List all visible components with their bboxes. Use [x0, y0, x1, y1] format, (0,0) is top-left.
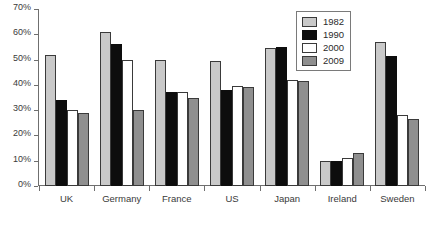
bar-sweden-2009 — [408, 119, 419, 186]
bar-group-us: US — [204, 9, 259, 186]
y-axis-tick-mark — [34, 9, 38, 10]
bar-sweden-1990 — [386, 56, 397, 186]
legend-item-2000: 2000 — [302, 42, 344, 53]
bar-chart-figure: 0%10%20%30%40%50%60%70% UKGermanyFranceU… — [0, 0, 431, 225]
x-axis-label: Ireland — [315, 194, 370, 204]
bar-uk-2000 — [67, 110, 78, 186]
x-axis-tick-mark — [39, 186, 40, 191]
bar-germany-2000 — [122, 60, 133, 186]
bar-uk-1990 — [56, 100, 67, 186]
y-axis-tick-label: 30% — [13, 104, 31, 113]
bar-germany-1982 — [100, 32, 111, 186]
x-axis-label: Japan — [260, 194, 315, 204]
bar-groups: UKGermanyFranceUSJapanIrelandSweden — [39, 9, 425, 186]
x-axis-tick-mark — [370, 186, 371, 191]
legend-item-1990: 1990 — [302, 29, 344, 40]
y-axis-tick-mark — [34, 161, 38, 162]
legend-item-2009: 2009 — [302, 55, 344, 66]
bar-us-1990 — [221, 90, 232, 186]
plot-area: 0%10%20%30%40%50%60%70% UKGermanyFranceU… — [38, 9, 425, 186]
y-axis-tick-label: 70% — [13, 3, 31, 12]
x-axis-tick-mark — [260, 186, 261, 191]
bar-sweden-1982 — [375, 42, 386, 186]
x-axis-label: US — [204, 194, 259, 204]
y-axis-tick-mark — [34, 34, 38, 35]
y-axis-tick-label: 10% — [13, 155, 31, 164]
bar-ireland-1990 — [331, 161, 342, 186]
x-axis-label: UK — [39, 194, 94, 204]
legend-swatch-1990 — [302, 30, 317, 40]
y-axis-tick-label: 20% — [13, 129, 31, 138]
bar-germany-2009 — [133, 110, 144, 186]
legend-item-1982: 1982 — [302, 16, 344, 27]
bar-france-1982 — [155, 60, 166, 186]
y-axis-tick-label: 0% — [18, 180, 31, 189]
bar-group-france: France — [149, 9, 204, 186]
y-axis-tick-label: 40% — [13, 79, 31, 88]
legend-swatch-1982 — [302, 17, 317, 27]
y-axis-tick-mark — [34, 85, 38, 86]
y-axis-tick-mark — [34, 60, 38, 61]
bar-japan-2000 — [287, 80, 298, 186]
y-axis-tick-label: 50% — [13, 54, 31, 63]
bar-group-sweden: Sweden — [370, 9, 425, 186]
legend-label-2009: 2009 — [323, 56, 344, 66]
bar-sweden-2000 — [397, 115, 408, 186]
bar-uk-2009 — [78, 113, 89, 186]
bar-uk-1982 — [45, 55, 56, 186]
x-axis-tick-mark — [425, 186, 426, 191]
x-axis-tick-mark — [315, 186, 316, 191]
y-axis-tick-mark — [34, 110, 38, 111]
legend-label-1990: 1990 — [323, 30, 344, 40]
legend-swatch-2009 — [302, 56, 317, 66]
x-axis-label: France — [149, 194, 204, 204]
legend-label-2000: 2000 — [323, 43, 344, 53]
bar-france-2000 — [177, 92, 188, 186]
x-axis-label: Sweden — [370, 194, 425, 204]
x-axis-label: Germany — [94, 194, 149, 204]
y-axis-tick-mark — [34, 186, 38, 187]
legend-swatch-2000 — [302, 43, 317, 53]
bar-group-uk: UK — [39, 9, 94, 186]
bar-ireland-2009 — [353, 153, 364, 186]
bar-france-1990 — [166, 92, 177, 186]
bar-japan-2009 — [298, 81, 309, 186]
y-axis-tick-mark — [34, 135, 38, 136]
bar-japan-1982 — [265, 48, 276, 186]
bar-us-2009 — [243, 87, 254, 186]
bar-us-2000 — [232, 86, 243, 186]
x-axis-tick-mark — [204, 186, 205, 191]
x-axis-tick-mark — [149, 186, 150, 191]
legend-label-1982: 1982 — [323, 17, 344, 27]
chart-legend: 1982199020002009 — [296, 11, 351, 71]
y-axis-tick-label: 60% — [13, 28, 31, 37]
x-axis-tick-mark — [94, 186, 95, 191]
bar-france-2009 — [188, 98, 199, 187]
bar-germany-1990 — [111, 44, 122, 186]
bar-ireland-1982 — [320, 161, 331, 186]
bar-japan-1990 — [276, 47, 287, 186]
bar-ireland-2000 — [342, 158, 353, 186]
bar-us-1982 — [210, 61, 221, 186]
bar-group-germany: Germany — [94, 9, 149, 186]
